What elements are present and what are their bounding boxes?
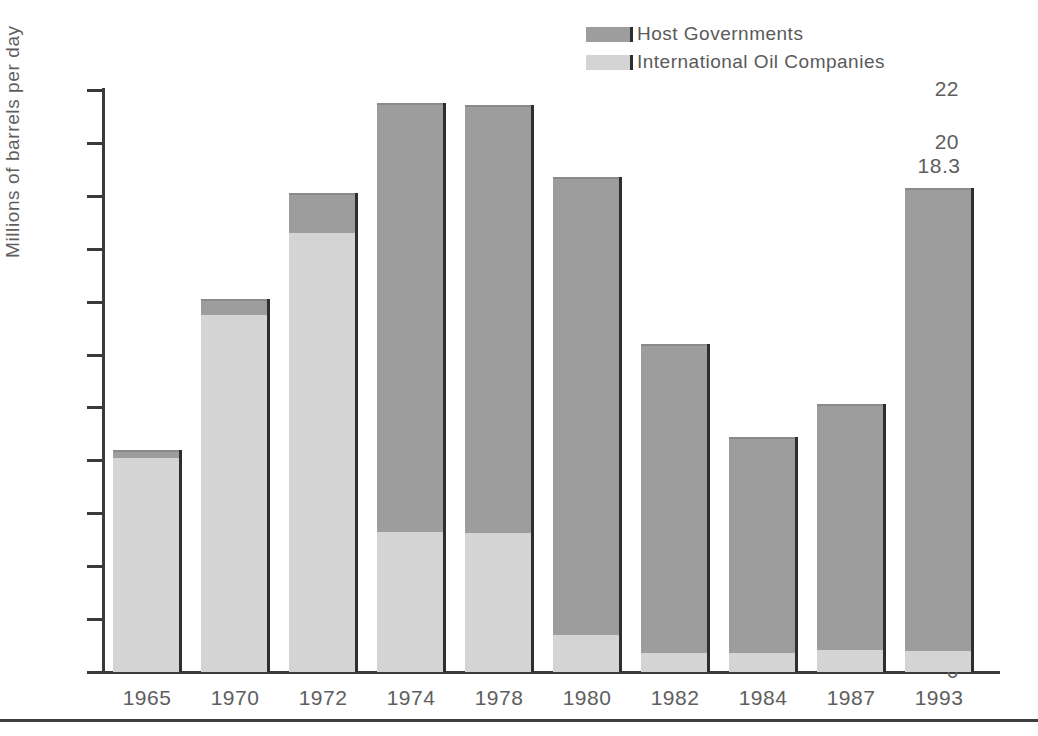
bar-1970 — [201, 299, 270, 672]
bar-top-edge — [817, 404, 883, 406]
bar-segment-international-oil-companies-1978 — [465, 533, 531, 672]
bar-group-1984 — [729, 90, 798, 672]
x-tick-label-1993: 1993 — [895, 686, 984, 710]
bar-top-edge — [641, 344, 707, 346]
y-tick-mark — [87, 618, 103, 621]
y-tick-mark — [87, 512, 103, 515]
bar-segment-international-oil-companies-1982 — [641, 653, 707, 672]
bar-segment-host-governments-1993 — [905, 188, 971, 651]
bar-segment-international-oil-companies-1970 — [201, 315, 267, 672]
bar-segment-international-oil-companies-1974 — [377, 532, 443, 672]
bar-1980 — [553, 177, 622, 672]
x-tick-label-1984: 1984 — [719, 686, 808, 710]
plot-area: 2220181614121086420 18.3 — [103, 90, 983, 672]
y-tick-mark — [87, 671, 103, 674]
bar-group-1980 — [553, 90, 622, 672]
bar-1987 — [817, 404, 886, 673]
chart-legend: Host Governments International Oil Compa… — [586, 22, 1006, 78]
bar-segment-international-oil-companies-1980 — [553, 635, 619, 672]
x-tick-label-1982: 1982 — [631, 686, 720, 710]
legend-swatch-host-governments — [586, 27, 633, 42]
bottom-divider — [0, 719, 1038, 722]
x-tick-label-1980: 1980 — [543, 686, 632, 710]
bar-1978 — [465, 105, 534, 672]
bar-group-1970 — [201, 90, 270, 672]
bar-segment-international-oil-companies-1984 — [729, 653, 795, 672]
legend-label-international-oil-companies: International Oil Companies — [637, 51, 885, 73]
y-tick-mark — [87, 248, 103, 251]
bar-group-1978 — [465, 90, 534, 672]
bar-1984 — [729, 437, 798, 672]
bar-group-1982 — [641, 90, 710, 672]
bar-value-label-1993: 18.3 — [905, 154, 974, 178]
bar-segment-host-governments-1982 — [641, 344, 707, 654]
y-tick-mark — [87, 195, 103, 198]
legend-swatch-international-oil-companies — [586, 55, 633, 70]
bar-segment-international-oil-companies-1972 — [289, 233, 355, 672]
bar-top-edge — [905, 188, 971, 190]
legend-item-host-governments: Host Governments — [586, 22, 1006, 46]
bar-top-edge — [113, 450, 179, 452]
y-axis-title: Millions of barrels per day — [2, 0, 24, 258]
bar-segment-host-governments-1974 — [377, 103, 443, 532]
bar-1993 — [905, 188, 974, 672]
bar-segment-host-governments-1980 — [553, 177, 619, 635]
y-tick-mark — [87, 301, 103, 304]
bar-top-edge — [465, 105, 531, 107]
bar-segment-international-oil-companies-1987 — [817, 650, 883, 672]
bar-top-edge — [201, 299, 267, 301]
x-tick-label-1965: 1965 — [103, 686, 192, 710]
y-tick-mark — [87, 89, 103, 92]
stacked-bar-chart-figure: Host Governments International Oil Compa… — [0, 0, 1038, 736]
y-axis-title-wrapper: Millions of barrels per day — [12, 90, 42, 672]
legend-label-host-governments: Host Governments — [637, 23, 803, 45]
legend-item-international-oil-companies: International Oil Companies — [586, 50, 1006, 74]
bar-group-1965 — [113, 90, 182, 672]
bar-1965 — [113, 450, 182, 672]
bar-1972 — [289, 193, 358, 672]
bar-top-edge — [553, 177, 619, 179]
bar-top-edge — [377, 103, 443, 105]
bar-segment-host-governments-1978 — [465, 105, 531, 534]
bar-top-edge — [729, 437, 795, 439]
bar-segment-international-oil-companies-1993 — [905, 651, 971, 672]
bar-1982 — [641, 344, 710, 672]
x-tick-label-1970: 1970 — [191, 686, 280, 710]
bar-segment-host-governments-1970 — [201, 299, 267, 315]
bar-segment-international-oil-companies-1965 — [113, 458, 179, 672]
x-tick-label-1972: 1972 — [279, 686, 368, 710]
bar-segment-host-governments-1984 — [729, 437, 795, 654]
y-tick-mark — [87, 565, 103, 568]
bar-1974 — [377, 103, 446, 672]
y-tick-mark — [87, 354, 103, 357]
x-tick-label-1987: 1987 — [807, 686, 896, 710]
bar-segment-host-governments-1987 — [817, 404, 883, 650]
bar-group-1974 — [377, 90, 446, 672]
bar-top-edge — [289, 193, 355, 195]
y-tick-mark — [87, 459, 103, 462]
x-tick-label-1978: 1978 — [455, 686, 544, 710]
y-tick-mark — [87, 406, 103, 409]
bar-group-1987 — [817, 90, 886, 672]
x-tick-label-1974: 1974 — [367, 686, 456, 710]
y-tick-mark — [87, 142, 103, 145]
bar-segment-host-governments-1972 — [289, 193, 355, 233]
bar-group-1972 — [289, 90, 358, 672]
